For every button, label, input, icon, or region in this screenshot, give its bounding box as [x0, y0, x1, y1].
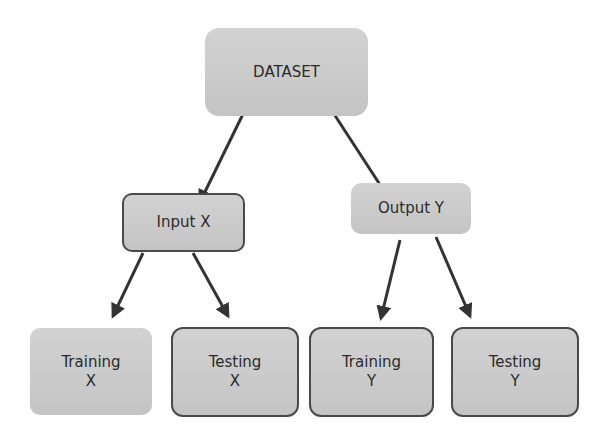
arrow-dataset-to-input-x	[200, 114, 243, 202]
node-dataset-label: DATASET	[253, 63, 320, 82]
arrow-output-y-to-training-y	[381, 240, 400, 318]
node-training-y: Training Y	[309, 327, 434, 417]
node-training-x-line2: X	[86, 372, 96, 391]
node-output-y: Output Y	[351, 183, 471, 234]
arrow-input-x-to-training-x	[113, 253, 143, 316]
node-output-y-label: Output Y	[378, 199, 444, 218]
node-dataset: DATASET	[205, 28, 368, 116]
node-testing-y: Testing Y	[451, 327, 579, 417]
node-testing-y-line1: Testing	[489, 353, 542, 372]
node-training-y-line2: Y	[367, 372, 376, 391]
diagram-canvas: DATASET Input X Output Y Training X Test…	[0, 0, 612, 441]
node-training-x: Training X	[30, 328, 152, 415]
arrow-output-y-to-testing-y	[436, 237, 470, 316]
node-training-x-line1: Training	[61, 353, 120, 372]
node-training-y-line1: Training	[342, 353, 401, 372]
node-testing-x-line2: X	[230, 372, 240, 391]
node-testing-x: Testing X	[171, 327, 299, 417]
node-input-x-label: Input X	[157, 213, 211, 232]
arrow-input-x-to-testing-x	[193, 253, 228, 316]
node-testing-y-line2: Y	[510, 372, 519, 391]
node-testing-x-line1: Testing	[209, 353, 262, 372]
node-input-x: Input X	[122, 193, 245, 252]
